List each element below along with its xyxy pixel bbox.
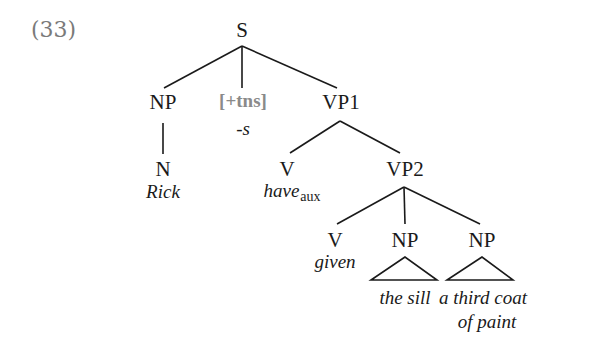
node-v-aux: V [279, 159, 294, 180]
edge-vp1-v [290, 121, 340, 153]
triangle-np1 [371, 257, 437, 280]
word-of-paint: of paint [458, 312, 517, 331]
node-tense-feature: [+tns] [219, 91, 267, 110]
node-s: S [236, 20, 248, 41]
word-have: have [263, 180, 299, 201]
edge-vp1-vp2 [340, 121, 400, 153]
node-np-object1: NP [392, 230, 419, 251]
edge-s-np [164, 46, 242, 88]
node-vp1: VP1 [322, 92, 359, 113]
word-rick: Rick [146, 182, 180, 201]
node-np-object2: NP [469, 230, 496, 251]
edge-s-vp1 [242, 46, 337, 88]
node-np-subject: NP [150, 92, 177, 113]
triangle-np2 [447, 257, 513, 280]
word-a-third-coat: a third coat [439, 288, 527, 307]
tense-suffix: -s [236, 119, 250, 138]
word-the-sill: the sill [379, 288, 430, 307]
subscript-aux: aux [300, 189, 320, 204]
word-given: given [314, 252, 355, 271]
edge-vp2-np2 [404, 187, 480, 224]
word-have-aux: haveaux [263, 181, 320, 200]
node-v-main: V [327, 230, 342, 251]
node-vp2: VP2 [386, 159, 423, 180]
edge-vp2-v [337, 187, 404, 224]
node-n: N [155, 159, 170, 180]
edge-vp2-np1 [404, 187, 405, 224]
